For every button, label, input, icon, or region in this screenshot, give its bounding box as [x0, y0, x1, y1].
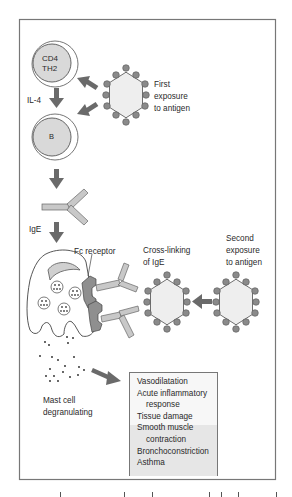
effect-item: Bronchoconstriction	[137, 446, 217, 458]
cropped-caption-fragments	[60, 492, 277, 497]
cross-linking-line1: Cross-linking	[143, 246, 190, 256]
second-exposure-line2: exposure	[226, 246, 260, 256]
effects-list: Vasodilatation Acute inflammatory respon…	[130, 373, 217, 469]
first-exposure-line1: First	[154, 80, 170, 90]
th2-label-line2: TH2	[42, 64, 57, 74]
effect-item: Tissue damage	[137, 411, 217, 423]
il4-label: IL-4	[27, 96, 41, 106]
effect-item: Vasodilatation	[137, 376, 217, 388]
th2-label-line1: CD4	[42, 54, 58, 64]
cross-linking-line2: of IgE	[143, 258, 164, 268]
effect-item: Smooth muscle	[137, 422, 217, 434]
effect-item: response	[137, 399, 217, 411]
first-exposure-line3: to antigen	[154, 104, 190, 114]
fc-receptor-label: Fc receptor	[74, 247, 115, 257]
mast-cell-label-line1: Mast cell	[43, 396, 75, 406]
mast-cell-label-line2: degranulating	[43, 408, 93, 418]
b-cell-label: B	[49, 132, 54, 142]
effect-item: contraction	[137, 434, 217, 446]
second-exposure-line1: Second	[226, 234, 254, 244]
diagram-canvas: CD4 TH2 B IL-4 IgE Fc receptor First exp…	[0, 0, 292, 497]
ige-label: IgE	[29, 225, 41, 235]
second-exposure-line3: to antigen	[226, 258, 262, 268]
b-cell	[32, 114, 78, 160]
effect-item: Acute inflammatory	[137, 388, 217, 400]
first-exposure-line2: exposure	[154, 92, 188, 102]
effects-box: Vasodilatation Acute inflammatory respon…	[129, 372, 218, 476]
effect-item: Asthma	[137, 457, 217, 469]
